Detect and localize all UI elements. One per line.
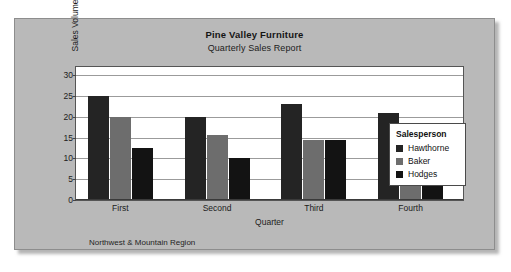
y-axis-tick-label: 20 — [51, 112, 73, 122]
bar — [229, 158, 250, 200]
x-axis-tick-label: Second — [203, 203, 232, 213]
bar — [110, 117, 131, 200]
chart-panel: Pine Valley Furniture Quarterly Sales Re… — [14, 18, 495, 250]
legend-label: Hodges — [408, 169, 437, 179]
y-axis-tick-label: 5 — [51, 174, 73, 184]
y-axis-tick-label: 25 — [51, 91, 73, 101]
legend-swatch-icon — [396, 171, 403, 178]
bar — [185, 117, 206, 200]
legend-label: Baker — [408, 156, 430, 166]
y-axis-tick-label: 10 — [51, 153, 73, 163]
y-axis-tick-label: 15 — [51, 133, 73, 143]
legend-entries: HawthorneBakerHodges — [396, 143, 459, 179]
x-axis-tick-label: Third — [304, 203, 323, 213]
chart-title: Pine Valley Furniture — [15, 29, 494, 40]
x-axis-title: Quarter — [75, 217, 464, 227]
bar — [132, 148, 153, 200]
legend-entry: Baker — [396, 156, 459, 166]
chart-subtitle: Quarterly Sales Report — [15, 43, 494, 53]
chart-screenshot: Pine Valley Furniture Quarterly Sales Re… — [0, 0, 511, 272]
y-axis-tick-label: 0 — [51, 195, 73, 205]
legend-swatch-icon — [396, 145, 403, 152]
legend-entry: Hodges — [396, 169, 459, 179]
legend: Salesperson HawthorneBakerHodges — [389, 123, 466, 186]
legend-label: Hawthorne — [408, 143, 449, 153]
legend-entry: Hawthorne — [396, 143, 459, 153]
y-axis-tick-label: 30 — [51, 70, 73, 80]
bar — [325, 140, 346, 200]
bar-group — [88, 67, 153, 200]
y-axis-tick-mark — [73, 200, 76, 201]
bar — [281, 104, 302, 200]
bar — [88, 96, 109, 200]
legend-swatch-icon — [396, 158, 403, 165]
bar-group — [281, 67, 346, 200]
x-axis-tick-label: First — [112, 203, 129, 213]
x-axis-tick-label: Fourth — [398, 203, 423, 213]
bar — [303, 140, 324, 200]
bar — [207, 135, 228, 200]
axis-baseline — [76, 199, 463, 200]
legend-title: Salesperson — [396, 129, 459, 139]
bar-group — [185, 67, 250, 200]
chart-footnote: Northwest & Mountain Region — [89, 238, 195, 247]
